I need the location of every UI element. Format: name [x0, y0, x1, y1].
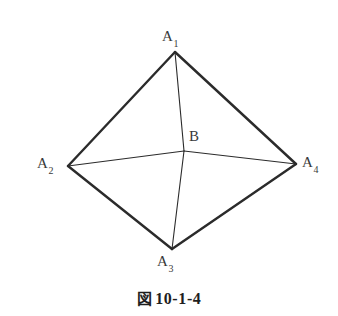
figure-container: A1 A2 A3 A4 B 図10-1-4	[0, 0, 338, 316]
spoke-a1-b	[175, 52, 184, 151]
vertex-label-a4-sub: 4	[314, 164, 319, 175]
vertex-label-a1-sub: 1	[174, 38, 179, 49]
spoke-b-a3	[172, 151, 184, 249]
vertex-label-a3-sub: 3	[169, 263, 174, 274]
edge-a3-a4	[172, 164, 296, 249]
interior-point-label-b-main: B	[189, 128, 199, 144]
inner-spokes	[68, 52, 296, 249]
interior-point-label-b: B	[189, 129, 199, 144]
vertex-label-a4-main: A	[302, 154, 313, 170]
vertex-label-a1-main: A	[162, 28, 173, 44]
vertex-label-a3-main: A	[157, 253, 168, 269]
spoke-b-a4	[184, 151, 296, 164]
vertex-label-a2-sub: 2	[49, 165, 54, 176]
vertex-label-a2-main: A	[37, 155, 48, 171]
figure-caption: 図10-1-4	[0, 287, 338, 308]
edge-a1-a2	[68, 52, 175, 166]
vertex-label-a2: A2	[37, 156, 53, 174]
edge-a4-a1	[175, 52, 296, 164]
vertex-label-a4: A4	[302, 155, 318, 173]
vertex-label-a3: A3	[157, 254, 173, 272]
spoke-a2-b	[68, 151, 184, 166]
edge-a2-a3	[68, 166, 172, 249]
figure-caption-number: 10-1-4	[155, 290, 201, 307]
figure-mark-glyph: 図	[137, 290, 153, 308]
vertex-label-a1: A1	[162, 29, 178, 47]
outer-edges	[68, 52, 296, 249]
